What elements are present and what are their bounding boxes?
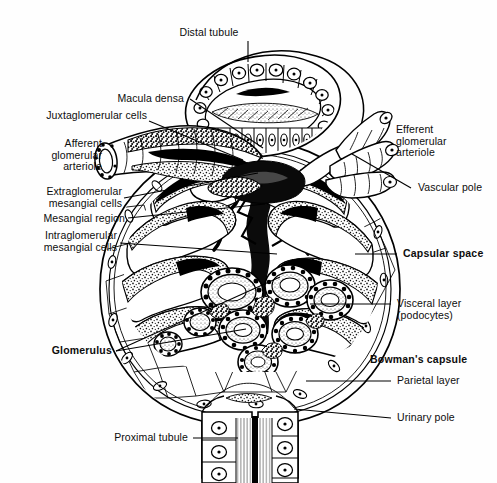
label-afferent-glomerular-arteriole: Afferent glomerular arteriole: [12, 138, 102, 173]
label-juxtaglomerular-cells: Juxtaglomerular cells: [14, 110, 147, 122]
renal-corpuscle-figure: Distal tubule Macula densa Juxtaglomerul…: [0, 0, 497, 483]
label-mesangial-region: Mesangial region: [12, 213, 125, 225]
label-intraglomerular-mesangial-cells: Intraglomerular mesangial cells: [12, 230, 117, 253]
label-efferent-glomerular-arteriole: Efferent glomerular arteriole: [396, 124, 447, 159]
label-distal-tubule: Distal tubule: [165, 27, 253, 39]
label-macula-densa: Macula densa: [44, 93, 184, 105]
label-visceral-layer-podocytes: Visceral layer (podocytes): [397, 298, 461, 321]
label-proximal-tubule: Proximal tubule: [100, 432, 188, 444]
label-urinary-pole: Urinary pole: [397, 412, 455, 424]
label-glomerulus: Glomerulus: [20, 345, 112, 357]
label-bowmans-capsule: Bowman's capsule: [370, 354, 467, 366]
label-vascular-pole: Vascular pole: [418, 182, 482, 194]
label-capsular-space: Capsular space: [403, 248, 483, 260]
label-parietal-layer: Parietal layer: [397, 375, 460, 387]
label-extraglomerular-mesangial-cells: Extraglomerular mesangial cells: [12, 186, 122, 209]
